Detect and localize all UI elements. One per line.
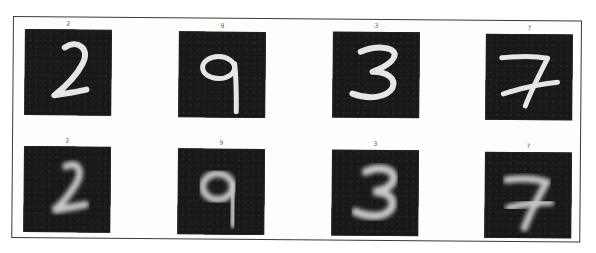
digit-3-glyph [332,32,420,119]
original-digit-3: 3 [332,32,420,119]
reconstructed-digit-9: 9 [177,148,265,235]
digit-9-glyph-blurred [177,148,265,235]
digit-image [24,29,112,116]
original-digit-7: 7 [485,34,573,121]
reconstructed-digit-7: 7 [484,152,572,239]
digit-9-glyph [178,31,266,118]
digit-image [177,148,265,235]
digit-image [178,31,266,118]
digit-image [332,32,420,119]
reconstructed-digit-3: 3 [331,150,419,237]
digit-title: 3 [333,22,420,31]
digit-title: 7 [486,24,573,33]
digit-2-glyph [24,29,112,116]
digit-title: 9 [179,21,266,30]
digit-image [23,146,111,233]
reconstructed-digit-2: 2 [23,146,111,233]
digit-7-glyph [485,34,573,121]
digit-image [485,34,573,121]
digit-image [331,150,419,237]
digit-title: 2 [25,19,112,28]
digit-title: 3 [332,140,419,149]
digit-image [484,152,572,239]
digit-7-glyph-blurred [484,152,572,239]
original-digit-2: 2 [24,29,112,116]
digit-3-glyph-blurred [331,150,419,237]
original-digit-9: 9 [178,31,266,118]
digit-title: 2 [24,136,111,145]
digit-2-glyph-blurred [23,146,111,233]
digit-title: 7 [485,142,572,151]
figure-frame: 2 9 3 7 [11,16,582,242]
digit-title: 9 [178,138,265,147]
